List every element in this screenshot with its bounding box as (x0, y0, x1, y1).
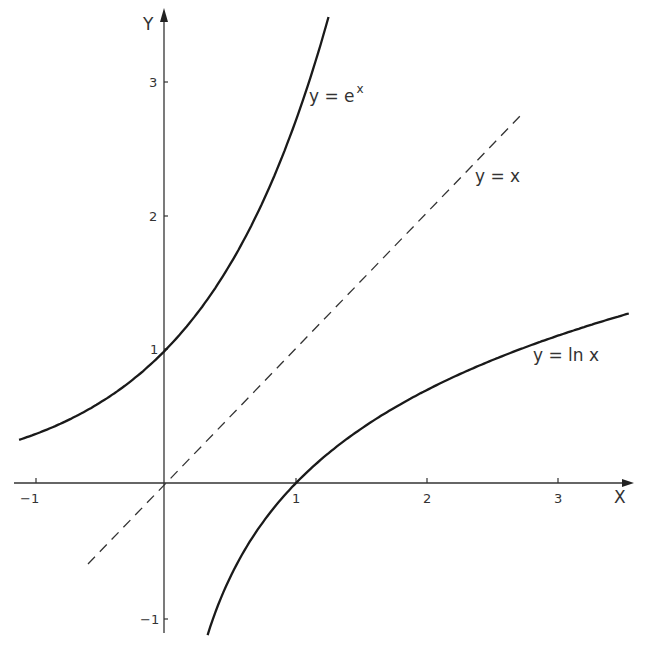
x-tick-label: 1 (292, 491, 300, 506)
x-tick-label: 3 (554, 491, 562, 506)
x-tick-label: −1 (20, 491, 39, 506)
exp-label-main: y = e (309, 86, 355, 106)
identity-line-label: y = x (475, 166, 520, 186)
exp-label-superscript: x (357, 82, 364, 96)
exp-curve-label: y = ex (309, 82, 364, 106)
chart-canvas: −1 1 2 3 3 2 1 −1 X Y y = ex y = x y = l… (0, 0, 647, 645)
x-tick-label: 2 (423, 491, 431, 506)
log-curve-label: y = ln x (533, 345, 599, 365)
x-axis-label: X (614, 487, 626, 507)
y-tick-label: 2 (149, 209, 157, 224)
y-tick-label: 3 (149, 75, 157, 90)
x-axis-arrow-icon (622, 479, 634, 487)
y-tick-label: 1 (150, 342, 158, 357)
y-axis-arrow-icon (160, 8, 168, 22)
exp-curve (19, 17, 328, 440)
y-tick-label: −1 (140, 612, 159, 627)
identity-line (88, 113, 523, 564)
y-axis-label: Y (142, 14, 154, 34)
